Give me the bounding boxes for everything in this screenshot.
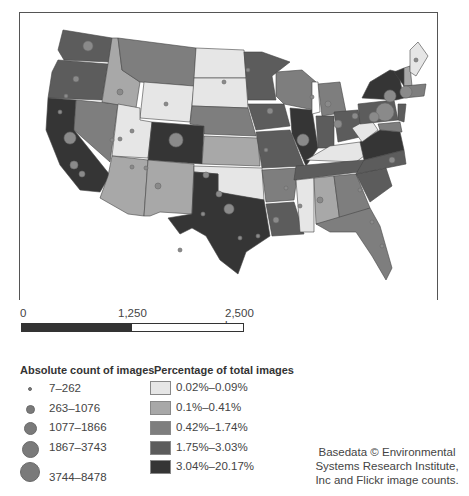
- legend-absolute-item-2: 263–1076: [49, 402, 100, 414]
- map-svg: [0, 0, 469, 300]
- legend-absolute-item-4: 1867–3743: [49, 441, 107, 453]
- legend-swatch-2: [150, 401, 171, 415]
- state-arizona: [100, 156, 148, 216]
- scale-bar-labels: 0 1,250 2,500 km: [20, 307, 270, 321]
- legend-percentage-item-3: 0.42%–1.74%: [176, 421, 248, 433]
- legend-percentage-item-2: 0.1%–0.41%: [176, 401, 241, 413]
- legend-dot-1: [28, 387, 32, 391]
- legend-percentage-item-1: 0.02%–0.09%: [176, 381, 248, 393]
- legend-percentage-item-5: 3.04%–20.17%: [176, 460, 254, 472]
- state-michigan: [318, 82, 346, 116]
- legend-dot-3: [24, 422, 37, 435]
- legend-dot-4: [22, 441, 39, 458]
- state-maine: [410, 42, 428, 76]
- data-source-credit: Basedata © Environmental Systems Researc…: [312, 445, 462, 487]
- scale-label-1250: 1,250: [118, 307, 147, 319]
- legend-swatch-3: [150, 421, 171, 435]
- state-new-jersey: [398, 104, 406, 122]
- state-new-mexico: [144, 160, 194, 216]
- credit-line-1: Basedata © Environmental: [312, 445, 462, 459]
- states: [46, 30, 428, 280]
- legend-percentage-item-4: 1.75%–3.03%: [176, 441, 248, 453]
- scale-bar-filled-segment: [22, 324, 132, 331]
- legend-swatch-5: [150, 460, 171, 474]
- credit-line-3: Inc and Flickr image counts.: [312, 473, 462, 487]
- state-kansas: [202, 136, 260, 166]
- scale-bar: [21, 323, 244, 332]
- legend-swatch-4: [150, 441, 171, 455]
- legend-swatch-1: [150, 381, 171, 395]
- legend-absolute-item-1: 7–262: [49, 382, 81, 394]
- legend-dot-5: [20, 462, 40, 482]
- state-indiana: [316, 116, 334, 148]
- legend-absolute-title: Absolute count of images: [20, 364, 154, 376]
- state-arkansas: [262, 168, 298, 202]
- legend-dot-2: [26, 405, 35, 414]
- scale-label-0: 0: [20, 307, 26, 319]
- credit-line-2: Systems Research Institute,: [312, 459, 462, 473]
- state-south-dakota: [192, 78, 248, 108]
- legend-absolute-item-3: 1077–1866: [49, 421, 107, 433]
- legend-absolute-item-5: 3744–8478: [49, 471, 107, 483]
- legend-percentage-title: Percentage of total images: [154, 364, 294, 376]
- state-north-dakota: [194, 48, 246, 78]
